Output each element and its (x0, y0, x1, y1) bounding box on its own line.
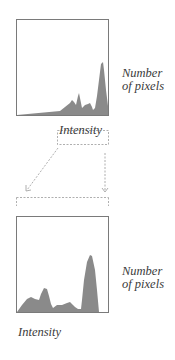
top-histogram-area (17, 62, 108, 115)
bottom-histogram (17, 217, 109, 313)
bottom-y-axis-label: Number of pixels (122, 265, 164, 291)
top-y-axis-label-line2: of pixels (122, 80, 164, 93)
left-arrow-line (27, 148, 58, 190)
arrow-heads (26, 185, 108, 192)
bottom-y-axis-label-line2: of pixels (122, 278, 164, 291)
bottom-x-axis-label: Intensity (18, 326, 61, 339)
top-histogram (17, 20, 109, 116)
top-histogram-frame (17, 20, 109, 116)
bottom-histogram-area (17, 255, 99, 312)
full-range-bracket (17, 198, 109, 207)
diagram-canvas (0, 0, 175, 360)
top-x-axis-label: Intensity (59, 124, 102, 137)
top-y-axis-label: Number of pixels (122, 67, 164, 93)
stretch-arrows (27, 148, 105, 190)
